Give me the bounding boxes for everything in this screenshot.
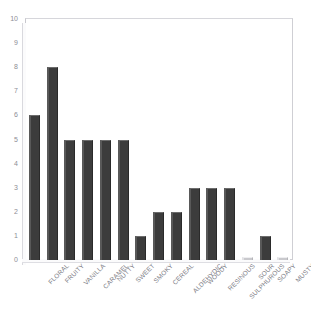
bar-slot xyxy=(29,19,40,260)
bar-slot xyxy=(153,19,164,260)
bar-slot xyxy=(189,19,200,260)
bar[interactable] xyxy=(189,188,200,260)
y-axis-tick-label: 10 xyxy=(10,15,18,22)
bar[interactable] xyxy=(171,212,182,260)
bar[interactable] xyxy=(82,140,93,261)
x-axis: FLORALFRUITYVANILLACARAMELNUTTYSWEETSMOK… xyxy=(26,262,292,310)
bar[interactable] xyxy=(277,257,288,260)
y-axis-tick-label: 8 xyxy=(14,63,18,70)
bar-slot xyxy=(64,19,75,260)
bar-slot xyxy=(242,19,253,260)
bar[interactable] xyxy=(260,236,271,260)
x-axis-tick-label: CEREAL xyxy=(171,262,195,286)
bar-slot xyxy=(135,19,146,260)
bar[interactable] xyxy=(47,67,58,260)
y-axis-tick-label: 7 xyxy=(14,87,18,94)
bar-slot xyxy=(47,19,58,260)
y-axis-tick-label: 2 xyxy=(14,207,18,214)
bar[interactable] xyxy=(29,115,40,260)
y-axis: 012345678910 xyxy=(0,18,22,260)
y-axis-tick-label: 4 xyxy=(14,159,18,166)
bar-slot xyxy=(224,19,235,260)
y-axis-tick-label: 6 xyxy=(14,111,18,118)
y-axis-tick-label: 0 xyxy=(14,256,18,263)
bar[interactable] xyxy=(64,140,75,261)
x-axis-tick-label: NUTTY xyxy=(116,262,137,283)
bars-group xyxy=(26,19,292,260)
bar-slot xyxy=(206,19,217,260)
bar-slot xyxy=(171,19,182,260)
bar-slot xyxy=(82,19,93,260)
bar-slot xyxy=(118,19,129,260)
y-axis-tick-label: 5 xyxy=(14,135,18,142)
bar[interactable] xyxy=(206,188,217,260)
x-axis-tick-label: RESINOUS xyxy=(226,262,256,292)
bar-slot xyxy=(100,19,111,260)
bar[interactable] xyxy=(118,140,129,261)
bar-slot xyxy=(277,19,288,260)
y-axis-tick-label: 1 xyxy=(14,231,18,238)
y-axis-tick-label: 9 xyxy=(14,39,18,46)
bar[interactable] xyxy=(153,212,164,260)
bar[interactable] xyxy=(100,140,111,261)
y-axis-tick-label: 3 xyxy=(14,183,18,190)
bar[interactable] xyxy=(135,236,146,260)
bar-chart: 012345678910 FLORALFRUITYVANILLACARAMELN… xyxy=(0,0,311,310)
bar[interactable] xyxy=(224,188,235,260)
bar[interactable] xyxy=(242,257,253,260)
bar-slot xyxy=(260,19,271,260)
